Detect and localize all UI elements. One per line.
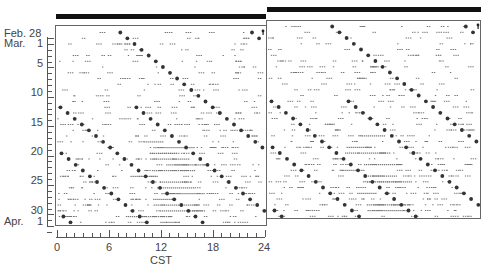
y-tick bbox=[47, 44, 54, 45]
x-tick bbox=[57, 230, 58, 237]
x-tick bbox=[195, 233, 196, 237]
y-tick bbox=[47, 91, 52, 92]
x-tick bbox=[169, 233, 170, 237]
x-tick bbox=[161, 230, 162, 237]
y-tick bbox=[47, 126, 54, 127]
y-tick bbox=[47, 120, 52, 121]
y-tick bbox=[47, 62, 52, 63]
y-tick bbox=[47, 167, 52, 168]
x-tick bbox=[100, 233, 101, 237]
y-label-25: 25 bbox=[20, 175, 43, 186]
y-tick bbox=[47, 114, 52, 115]
x-tick bbox=[118, 233, 119, 237]
y-tick bbox=[47, 156, 54, 157]
y-tick bbox=[47, 132, 52, 133]
y-tick bbox=[47, 197, 52, 198]
y-tick bbox=[47, 144, 52, 145]
x-label-6: 6 bbox=[106, 242, 112, 253]
actogram-plot bbox=[0, 0, 496, 268]
x-tick bbox=[204, 233, 205, 237]
y-tick bbox=[47, 203, 52, 204]
y-label-20: 20 bbox=[20, 146, 43, 157]
y-tick bbox=[47, 73, 52, 74]
y-tick bbox=[47, 179, 52, 180]
x-tick bbox=[239, 233, 240, 237]
y-tick bbox=[47, 109, 52, 110]
y-tick bbox=[47, 50, 52, 51]
y-tick bbox=[47, 185, 54, 186]
x-tick bbox=[221, 233, 222, 237]
y-label-10: 10 bbox=[20, 87, 43, 98]
y-label-15: 15 bbox=[20, 117, 43, 128]
y-label-mar-1: 1 bbox=[30, 38, 43, 49]
x-label-24: 24 bbox=[258, 242, 270, 253]
y-tick bbox=[47, 67, 54, 68]
y-tick bbox=[47, 56, 52, 57]
y-tick bbox=[47, 161, 52, 162]
x-tick bbox=[83, 233, 84, 237]
y-tick bbox=[47, 150, 52, 151]
x-axis-line bbox=[56, 237, 265, 238]
y-tick bbox=[47, 85, 52, 86]
x-tick bbox=[144, 233, 145, 237]
x-tick bbox=[178, 233, 179, 237]
y-label-5: 5 bbox=[20, 58, 43, 69]
y-tick bbox=[47, 79, 52, 80]
x-tick bbox=[66, 233, 67, 237]
x-tick bbox=[109, 230, 110, 237]
y-tick bbox=[47, 103, 52, 104]
x-tick bbox=[74, 233, 75, 237]
x-label-12: 12 bbox=[155, 242, 167, 253]
y-label-apr-1: 1 bbox=[30, 216, 43, 227]
y-tick bbox=[47, 97, 54, 98]
y-label-apr: Apr. bbox=[4, 216, 32, 227]
y-tick bbox=[47, 38, 54, 39]
x-tick bbox=[126, 233, 127, 237]
x-tick bbox=[92, 233, 93, 237]
x-tick bbox=[152, 233, 153, 237]
x-label-0: 0 bbox=[54, 242, 60, 253]
y-tick bbox=[47, 209, 52, 210]
x-tick bbox=[213, 230, 214, 237]
y-tick bbox=[47, 138, 52, 139]
x-tick bbox=[256, 233, 257, 237]
y-tick bbox=[47, 191, 52, 192]
x-tick bbox=[135, 233, 136, 237]
y-tick bbox=[47, 214, 54, 215]
x-tick bbox=[187, 233, 188, 237]
x-label-18: 18 bbox=[207, 242, 219, 253]
y-tick bbox=[47, 173, 52, 174]
x-tick bbox=[247, 233, 248, 237]
y-tick bbox=[47, 220, 52, 221]
y-tick bbox=[47, 226, 54, 227]
y-tick bbox=[47, 232, 52, 233]
y-label-mar: Mar. bbox=[4, 38, 30, 49]
x-tick bbox=[230, 233, 231, 237]
x-tick bbox=[265, 230, 266, 237]
x-axis-title: CST bbox=[150, 255, 172, 266]
